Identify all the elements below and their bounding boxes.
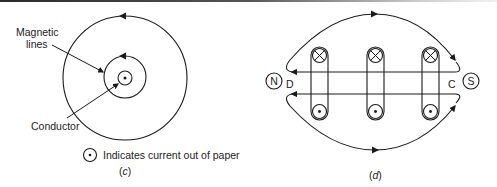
conductor-label: Conductor xyxy=(31,120,80,132)
top-arc-field-line xyxy=(286,14,455,72)
legend-text: Indicates current out of paper xyxy=(103,149,240,161)
point-d-label: D xyxy=(286,78,294,90)
figure-d: N D S C xyxy=(266,11,479,182)
point-c-label: C xyxy=(448,78,456,90)
inner-circle-arrow-icon xyxy=(119,53,126,60)
cross-icon xyxy=(426,51,436,61)
outer-circle-arrow-icon xyxy=(119,13,126,20)
caption-c: (c) xyxy=(119,165,131,177)
figure-c: Magnetic lines Conductor Indicates curre… xyxy=(16,13,240,178)
conductor-loop-2 xyxy=(367,47,384,120)
bottom-arc-arrow-icon xyxy=(372,147,379,154)
magnetic-lines-pointer-arrow xyxy=(52,45,103,72)
south-pole-label: S xyxy=(467,75,474,87)
conductor-pointer-arrow xyxy=(67,84,118,118)
bottom-arc-field-line xyxy=(286,94,455,150)
cross-icon xyxy=(371,51,381,61)
conductor-dot-icon xyxy=(124,77,127,80)
caption-d: (d) xyxy=(369,169,382,181)
top-arc-arrow-icon xyxy=(371,11,378,18)
dot-icon xyxy=(318,110,321,113)
top-horizontal-field-line xyxy=(292,62,460,72)
bottom-horizontal-field-line xyxy=(292,94,460,103)
magnetic-lines-label: Magnetic xyxy=(16,26,59,38)
cross-icon xyxy=(315,51,325,61)
legend-dot-icon xyxy=(89,154,92,157)
diagram-canvas: Magnetic lines Conductor Indicates curre… xyxy=(0,0,497,187)
dot-icon xyxy=(374,110,377,113)
conductor-loop-3 xyxy=(422,47,439,120)
conductor-loop-1 xyxy=(311,47,328,120)
north-pole-label: N xyxy=(270,75,278,87)
magnetic-lines-label-2: lines xyxy=(26,38,48,50)
dot-icon xyxy=(429,110,432,113)
